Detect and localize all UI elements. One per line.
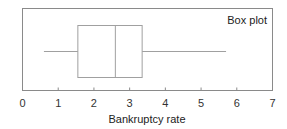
chart-title: Box plot (227, 14, 267, 26)
x-tick-label: 1 (55, 97, 61, 109)
x-tick-label: 6 (234, 97, 240, 109)
x-tick-label: 4 (162, 97, 168, 109)
x-tick-label: 0 (19, 97, 25, 109)
x-axis-tick-labels: 01234567 (19, 97, 275, 109)
iqr-box (78, 26, 142, 78)
x-tick-label: 2 (91, 97, 97, 109)
x-tick-label: 7 (269, 97, 275, 109)
box-plot-chart: 01234567 Box plot Bankruptcy rate (0, 0, 287, 129)
x-tick-label: 5 (198, 97, 204, 109)
x-tick-label: 3 (127, 97, 133, 109)
x-axis-label: Bankruptcy rate (108, 113, 185, 125)
